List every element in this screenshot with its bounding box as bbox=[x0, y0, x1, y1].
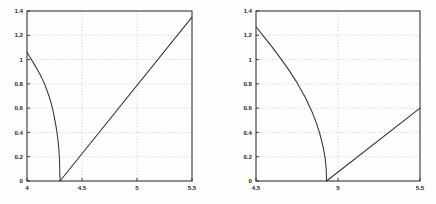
ticks-left bbox=[27, 11, 192, 181]
ytick-label: 0 bbox=[20, 177, 24, 184]
ytick-label: 1 bbox=[20, 56, 24, 63]
descending-branch-curve bbox=[256, 27, 327, 181]
plot-frame bbox=[27, 11, 192, 181]
xtick-label: 5 bbox=[135, 184, 139, 191]
ytick-label: 0.4 bbox=[14, 129, 23, 136]
gridlines-right bbox=[256, 11, 420, 181]
descending-branch-curve bbox=[27, 52, 60, 181]
xtick-label: 5.5 bbox=[416, 184, 425, 191]
ascending-line bbox=[60, 17, 192, 181]
xtick-label: 5.5 bbox=[188, 184, 197, 191]
ytick-label: 1.2 bbox=[243, 31, 252, 38]
xtick-label: 4.5 bbox=[78, 184, 87, 191]
ytick-label: 0.4 bbox=[243, 129, 252, 136]
ytick-label: 1 bbox=[249, 56, 253, 63]
xtick-labels-left: 44.555.5 bbox=[25, 184, 197, 191]
ytick-label: 0.8 bbox=[243, 80, 252, 87]
ytick-label: 1.2 bbox=[14, 31, 23, 38]
ytick-label: 1.4 bbox=[243, 7, 252, 14]
ytick-labels-left: 00.20.40.60.811.21.4 bbox=[14, 7, 23, 184]
gridlines-left bbox=[27, 11, 192, 181]
ytick-label: 0.8 bbox=[14, 80, 23, 87]
xtick-label: 5 bbox=[336, 184, 340, 191]
figure-container: 44.555.5 00.20.40.60.811.21.4 4.555.5 00… bbox=[0, 0, 436, 204]
ytick-label: 0.2 bbox=[14, 153, 23, 160]
chart-panel-left: 44.555.5 00.20.40.60.811.21.4 bbox=[0, 0, 218, 204]
ytick-label: 0.6 bbox=[243, 104, 252, 111]
ytick-label: 1.4 bbox=[14, 7, 23, 14]
chart-svg-right: 4.555.5 00.20.40.60.811.21.4 bbox=[218, 0, 436, 204]
ytick-labels-right: 00.20.40.60.811.21.4 bbox=[243, 7, 252, 184]
ascending-line bbox=[327, 108, 420, 181]
ytick-label: 0.6 bbox=[14, 104, 23, 111]
ytick-label: 0.2 bbox=[243, 153, 252, 160]
xtick-labels-right: 4.555.5 bbox=[252, 184, 425, 191]
ytick-label: 0 bbox=[249, 177, 253, 184]
chart-svg-left: 44.555.5 00.20.40.60.811.21.4 bbox=[0, 0, 218, 204]
chart-panel-right: 4.555.5 00.20.40.60.811.21.4 bbox=[218, 0, 436, 204]
xtick-label: 4.5 bbox=[252, 184, 261, 191]
xtick-label: 4 bbox=[25, 184, 29, 191]
